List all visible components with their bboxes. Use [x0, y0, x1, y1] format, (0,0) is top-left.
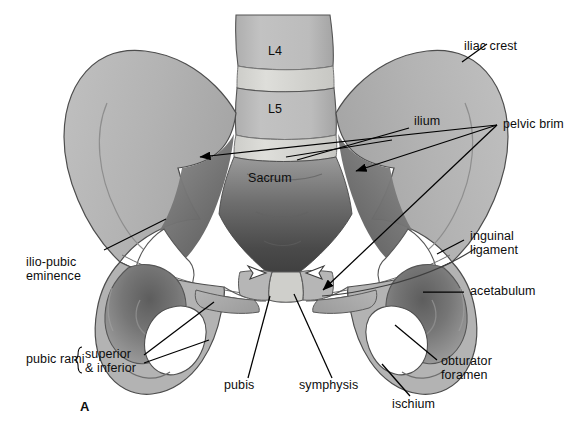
pelvis-anatomy-figure: iliac crest pelvic brim ilium inguinal l…: [0, 0, 580, 439]
label-iliac-crest: iliac crest: [464, 40, 517, 54]
label-ilio-pubic-eminence-line2: eminence: [26, 270, 81, 284]
label-pelvic-brim: pelvic brim: [503, 118, 564, 132]
label-acetabulum: acetabulum: [470, 285, 536, 299]
label-obturator-foramen-line2: foramen: [441, 369, 488, 383]
label-sacrum: Sacrum: [248, 172, 292, 186]
lumbar-vertebrae-group: [234, 15, 337, 162]
label-inguinal-ligament-line1: inguinal: [470, 230, 514, 244]
label-pubic-rami-inferior: & inferior: [85, 362, 136, 376]
bony-pelvis-group: [64, 15, 508, 394]
label-vertebra-l5: L5: [268, 103, 282, 117]
label-pubic-rami: pubic rami: [26, 353, 85, 367]
label-obturator-foramen-line1: obturator: [441, 355, 492, 369]
label-ischium: ischium: [392, 398, 435, 412]
panel-letter: A: [80, 400, 90, 414]
label-symphysis: symphysis: [299, 379, 358, 393]
label-ilio-pubic-eminence-line1: ilio-pubic: [26, 256, 76, 270]
pubic-symphysis: [269, 272, 304, 302]
label-ilium: ilium: [414, 115, 440, 129]
label-vertebra-l4: L4: [268, 45, 282, 59]
label-pubic-rami-superior: superior: [85, 348, 131, 362]
label-inguinal-ligament-line2: ligament: [470, 244, 518, 258]
vertebra-l4-body: [236, 15, 334, 70]
label-pubis: pubis: [224, 379, 254, 393]
vertebra-l5-body: [235, 88, 336, 140]
intervertebral-disc-l4-l5: [237, 66, 334, 92]
